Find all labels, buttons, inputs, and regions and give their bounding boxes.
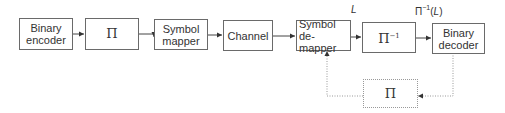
feedback-interleaver-symbol: Π (385, 88, 396, 100)
deinterleaver-output-label: Π−1(L) (415, 4, 442, 17)
deinterleaver-pi: Π (378, 31, 389, 46)
channel-block: Channel (223, 20, 273, 51)
label-close-paren: ) (439, 6, 442, 17)
deinterleaver-symbol: Π−1 (378, 30, 400, 45)
binary-decoder-line2: decoder (439, 39, 479, 51)
demapper-output-label: L (351, 4, 357, 15)
deinterleaver-sup: −1 (390, 32, 400, 40)
symbol-mapper-line1: Symbol (162, 23, 199, 35)
feedback-decoder-to-interleaver (418, 53, 453, 96)
binary-encoder-line1: Binary (26, 22, 66, 34)
deinterleaver-block: Π−1 (362, 22, 416, 53)
binary-decoder-line1: Binary (439, 27, 479, 39)
feedback-interleaver-block: Π (363, 79, 418, 108)
llr-variable: L (351, 4, 357, 15)
interleaver-block: Π (85, 18, 139, 50)
symbol-demapper-line2: de-mapper (299, 30, 350, 54)
feedback-interleaver-to-demapper (327, 51, 363, 96)
binary-encoder-line2: encoder (26, 34, 66, 46)
binary-decoder-block: Binary decoder (432, 23, 485, 54)
symbol-mapper-block: Symbol mapper (154, 19, 208, 50)
arrow-interleaver-to-mapper (138, 34, 154, 37)
symbol-demapper-line1: Symbol (299, 18, 350, 30)
channel-label: Channel (228, 30, 269, 42)
interleaver-symbol: Π (106, 28, 117, 40)
symbol-mapper-line2: mapper (162, 35, 199, 47)
symbol-demapper-block: Symbol de-mapper (296, 20, 351, 51)
binary-encoder-block: Binary encoder (19, 18, 73, 50)
